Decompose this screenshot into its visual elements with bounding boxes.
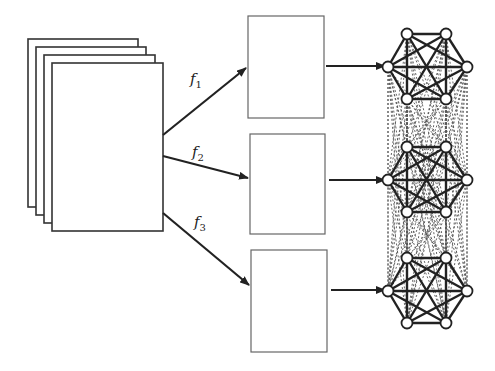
graph-node xyxy=(462,62,473,73)
block-1 xyxy=(248,16,324,118)
graph-node xyxy=(383,175,394,186)
graph-node xyxy=(441,94,452,105)
label-f3: f3 xyxy=(193,213,206,233)
arrow-f1 xyxy=(163,68,246,135)
graph-node xyxy=(402,142,413,153)
label-f2: f2 xyxy=(191,143,204,163)
graph-node xyxy=(441,253,452,264)
graph-node xyxy=(402,253,413,264)
graph-node xyxy=(441,207,452,218)
graph-1 xyxy=(383,29,473,105)
input-page-stack xyxy=(28,39,163,231)
arrow-f2 xyxy=(163,156,248,178)
arrow-f3 xyxy=(163,213,249,285)
block-3 xyxy=(251,250,327,352)
graph-node xyxy=(383,286,394,297)
graph-node xyxy=(441,142,452,153)
graph-node xyxy=(441,29,452,40)
graph-node xyxy=(462,286,473,297)
diagram-canvas: f1 f2 f3 xyxy=(0,0,495,371)
graph-node xyxy=(402,207,413,218)
graph-node xyxy=(402,318,413,329)
graph-node xyxy=(441,318,452,329)
graph-node xyxy=(383,62,394,73)
graph-node xyxy=(462,175,473,186)
block-2 xyxy=(250,134,325,234)
page-1 xyxy=(52,63,163,231)
label-f1: f1 xyxy=(189,70,202,90)
graph-node xyxy=(402,94,413,105)
graph-node xyxy=(402,29,413,40)
